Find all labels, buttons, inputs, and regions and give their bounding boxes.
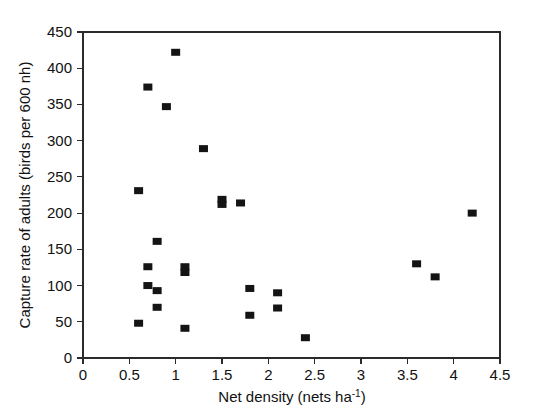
data-point [153,238,162,245]
x-tick-label: 4.5 [490,366,511,383]
data-point [245,285,254,292]
y-tick-label: 0 [64,349,72,366]
data-point [199,145,208,152]
data-point [143,282,152,289]
x-tick-label: 3.5 [397,366,418,383]
data-point-markers [134,49,477,341]
x-tick-label: 4 [449,366,457,383]
data-point [301,334,310,341]
data-point [143,263,152,270]
data-point [431,273,440,280]
y-axis-tick-labels: 050100150200250300350400450 [47,23,72,366]
data-point [245,312,254,319]
y-tick-label: 300 [47,132,72,149]
y-tick-label: 350 [47,95,72,112]
data-point [153,304,162,311]
x-tick-label: 1.5 [212,366,233,383]
y-tick-label: 200 [47,204,72,221]
y-tick-label: 400 [47,59,72,76]
data-point [412,260,421,267]
axis-box-top-right [83,32,500,358]
data-point [273,305,282,312]
data-point [180,325,189,332]
x-tick-label: 2.5 [304,366,325,383]
data-point [153,287,162,294]
data-point [162,103,171,110]
y-tick-label: 50 [55,313,72,330]
scatter-plot: 00.511.522.533.544.5 0501001502002503003… [0,0,537,419]
x-axis-tick-labels: 00.511.522.533.544.5 [79,366,511,383]
x-tick-label: 0.5 [119,366,140,383]
y-axis-title: Capture rate of adults (birds per 600 nh… [16,62,33,329]
data-point [236,199,245,206]
data-point [134,187,143,194]
x-tick-label: 3 [357,366,365,383]
x-axis-title: Net density (nets ha-1) [218,388,365,406]
data-point [273,289,282,296]
axes-frame [83,32,500,358]
y-tick-label: 150 [47,240,72,257]
data-point [180,269,189,276]
x-tick-label: 1 [171,366,179,383]
x-axis-ticks [83,358,500,364]
data-point [134,320,143,327]
y-tick-label: 250 [47,168,72,185]
y-tick-label: 450 [47,23,72,40]
data-point [143,84,152,91]
figure-container: 00.511.522.533.544.5 0501001502002503003… [0,0,537,419]
y-axis-ticks [77,32,83,358]
y-tick-label: 100 [47,277,72,294]
x-tick-label: 2 [264,366,272,383]
data-point [171,49,180,56]
axis-spines [83,32,500,358]
x-tick-label: 0 [79,366,87,383]
data-point [218,201,227,208]
data-point [468,210,477,217]
